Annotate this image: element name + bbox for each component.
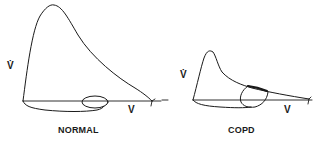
normal-caption: NORMAL [58,125,99,135]
normal-tidal-loop [82,96,108,108]
normal-volume-axis-label: V [128,104,135,115]
normal-inspiratory-curve [23,101,104,112]
copd-volume-axis-label: V [284,104,291,115]
copd-flow-limitation-overlap [248,86,267,91]
normal-panel [23,5,161,112]
copd-expiratory-curve [193,51,309,100]
copd-caption: COPD [228,125,255,135]
copd-flow-axis-label: V̇ [180,69,187,80]
normal-expiratory-curve [23,5,152,101]
copd-axis-end-tick [308,97,311,104]
flow-volume-diagram [0,0,324,143]
normal-flow-axis-label: V̇ [7,60,14,71]
